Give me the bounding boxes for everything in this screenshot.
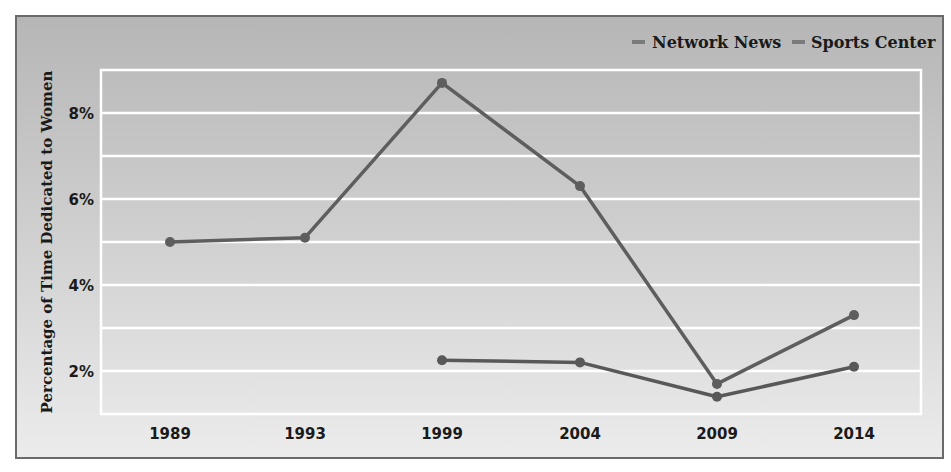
y-tick-label: 2%: [69, 363, 94, 381]
legend-marker-sports-center: [792, 40, 805, 44]
series-line-network-news: [170, 83, 854, 384]
legend: Network News Sports Center: [632, 33, 936, 52]
data-point-network-news: [165, 237, 175, 247]
x-tick-label: 1993: [284, 425, 326, 443]
y-axis: 2%4%6%8%: [69, 105, 94, 381]
x-tick-label: 2014: [833, 425, 875, 443]
data-point-network-news: [300, 233, 310, 243]
x-tick-label: 2004: [559, 425, 601, 443]
data-point-network-news: [712, 379, 722, 389]
data-point-sports-center: [849, 362, 859, 372]
data-point-sports-center: [712, 392, 722, 402]
line-chart: 2%4%6%8% 198919931999200420092014 Percen…: [0, 0, 951, 472]
x-tick-label: 1989: [149, 425, 191, 443]
x-tick-label: 2009: [696, 425, 738, 443]
y-tick-label: 8%: [69, 105, 94, 123]
x-axis: 198919931999200420092014: [149, 425, 875, 443]
data-point-network-news: [437, 78, 447, 88]
series-line-sports-center: [442, 360, 854, 397]
legend-label-sports-center: Sports Center: [811, 33, 936, 52]
data-point-sports-center: [437, 355, 447, 365]
data-point-network-news: [575, 181, 585, 191]
legend-label-network-news: Network News: [652, 33, 781, 52]
y-axis-title: Percentage of Time Dedicated to Women: [38, 70, 56, 413]
data-point-network-news: [849, 310, 859, 320]
data-point-sports-center: [575, 357, 585, 367]
x-tick-label: 1999: [421, 425, 463, 443]
series-lines: [165, 78, 859, 402]
y-tick-label: 4%: [69, 277, 94, 295]
y-tick-label: 6%: [69, 191, 94, 209]
legend-marker-network-news: [632, 40, 645, 44]
